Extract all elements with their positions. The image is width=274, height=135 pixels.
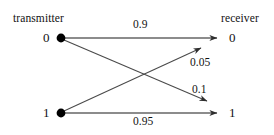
transmitter-title: transmitter [13, 13, 64, 25]
node-label-receiver-0: 0 [229, 31, 236, 44]
node-dot-transmitter-0 [57, 34, 66, 43]
edge-line-1-to-0 [64, 48, 201, 111]
node-label-transmitter-1: 1 [43, 106, 50, 119]
node-label-transmitter-0: 0 [43, 31, 50, 44]
edge-label-0-to-1: 0.1 [192, 84, 206, 96]
node-dot-transmitter-1 [57, 109, 66, 118]
receiver-title: receiver [221, 13, 259, 25]
node-label-receiver-1: 1 [229, 106, 236, 119]
edge-label-0-to-0: 0.9 [133, 19, 147, 31]
channel-diagram: transmitter receiver 0 1 0 1 0.9 0.05 0.… [0, 0, 274, 135]
edge-label-1-to-1: 0.95 [133, 116, 153, 128]
edge-label-1-to-0: 0.05 [190, 57, 210, 69]
edge-line-0-to-1 [64, 40, 207, 101]
